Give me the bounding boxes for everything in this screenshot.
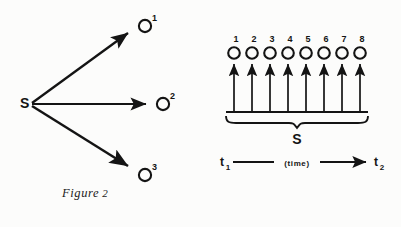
figure-2-caption-word: Figure — [62, 186, 99, 200]
figure-3-event-5: 5 — [300, 34, 312, 111]
figure-3-event-2: 2 — [246, 34, 258, 111]
figure-3: 1 2 3 4 5 — [200, 0, 401, 227]
figure-3-time-axis: t 1 (time) t 2 — [220, 155, 385, 172]
figure-3-axis-end-subscript: 2 — [380, 163, 385, 172]
figure-2-arrow-3 — [32, 106, 128, 166]
figure-2-caption-number: 2 — [99, 187, 108, 199]
figure-2: S 1 2 3 Figure2 — [0, 0, 200, 227]
figure-3-events: 1 2 3 4 5 — [228, 34, 366, 111]
figure-3-event-1: 1 — [228, 34, 240, 111]
figure-3-event-2-number: 2 — [251, 34, 256, 44]
figure-3-event-8-number: 8 — [359, 34, 364, 44]
figure-2-source-label: S — [20, 95, 29, 111]
figure-3-event-3: 3 — [264, 34, 276, 111]
figure-3-event-3-number: 3 — [269, 34, 274, 44]
figure-3-diagram: 1 2 3 4 5 — [200, 0, 401, 180]
figure-2-node-2-superscript: 2 — [170, 91, 175, 101]
figure-3-event-6-number: 6 — [323, 34, 328, 44]
figure-3-event-7-number: 7 — [341, 34, 346, 44]
figure-2-node-2: 2 — [157, 91, 175, 110]
figure-3-axis-start-label: t — [220, 155, 224, 169]
figure-2-node-3: 3 — [139, 162, 157, 181]
figure-2-node-3-superscript: 3 — [152, 162, 157, 172]
figure-2-diagram: S 1 2 3 — [0, 0, 200, 180]
figure-2-node-1: 1 — [139, 13, 157, 32]
figure-3-event-5-number: 5 — [305, 34, 310, 44]
figure-3-brace-label: S — [292, 131, 301, 147]
figure-3-event-7: 7 — [336, 34, 348, 111]
figure-3-brace — [226, 116, 368, 128]
figure-2-node-1-superscript: 1 — [152, 13, 157, 23]
figure-2-caption: Figure2 — [62, 186, 108, 201]
figure-3-event-1-number: 1 — [233, 34, 238, 44]
figure-3-axis-middle-label: (time) — [284, 159, 309, 168]
figure-2-arrow-1 — [32, 33, 128, 103]
figure-3-axis-end-label: t — [374, 155, 378, 169]
figure-3-event-4-number: 4 — [287, 34, 292, 44]
figure-3-event-6: 6 — [318, 34, 330, 111]
figure-3-axis-start-subscript: 1 — [226, 163, 231, 172]
figure-3-event-8: 8 — [354, 34, 366, 111]
figure-3-event-4: 4 — [282, 34, 294, 111]
